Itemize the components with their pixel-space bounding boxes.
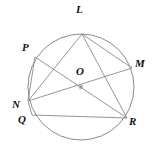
diameter-L-R xyxy=(82,34,127,118)
chord-L-M xyxy=(82,34,132,68)
vertex-label-R: R xyxy=(129,116,136,127)
circle-geometry-figure: L P M O N Q R xyxy=(0,0,158,156)
chord-Q-R xyxy=(32,115,127,118)
chord-L-N xyxy=(28,34,82,101)
vertex-label-L: L xyxy=(76,4,83,15)
center-point-dot xyxy=(79,85,82,88)
vertex-label-Q: Q xyxy=(18,114,26,125)
vertex-label-P: P xyxy=(22,42,29,53)
geometry-canvas xyxy=(0,0,158,156)
vertex-label-M: M xyxy=(135,58,145,69)
vertex-label-O: O xyxy=(76,66,84,77)
vertex-label-N: N xyxy=(12,99,20,110)
